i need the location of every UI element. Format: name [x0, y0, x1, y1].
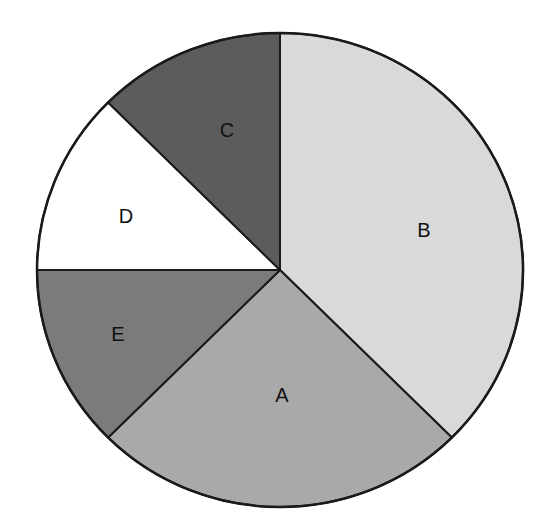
pie-chart: B A E D C: [0, 0, 554, 522]
slice-label-d: D: [119, 205, 133, 227]
slice-label-c: C: [220, 119, 234, 141]
slice-label-b: B: [417, 219, 430, 241]
slice-label-e: E: [111, 323, 124, 345]
pie-slices: [37, 33, 523, 507]
slice-label-a: A: [275, 384, 289, 406]
